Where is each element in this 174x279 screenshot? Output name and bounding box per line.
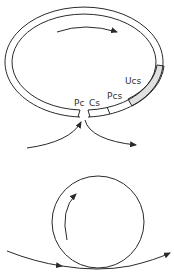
tangent-flow-left — [7, 251, 62, 266]
label-pc: Pc — [74, 98, 84, 108]
bottom-circulation-arrow-icon — [65, 194, 76, 240]
inflow-arrow-icon — [27, 122, 81, 148]
tangent-flow-bottom — [62, 253, 170, 269]
circulation-arrow-icon — [57, 27, 117, 32]
outflow-arrow-icon — [85, 120, 136, 145]
label-pcs: Pcs — [107, 91, 122, 101]
bottom-circle-group — [7, 176, 170, 269]
pcs-boundary — [107, 107, 110, 114]
gap-cap-left — [78, 110, 80, 117]
label-ucs: Ucs — [125, 76, 142, 86]
bottom-circle — [52, 176, 144, 268]
diagram-canvas: Pc Cs Pcs Ucs — [0, 0, 174, 279]
label-cs: Cs — [89, 98, 100, 108]
gap-cap-right — [88, 110, 90, 117]
top-ring: Pc Cs Pcs Ucs — [5, 7, 164, 148]
